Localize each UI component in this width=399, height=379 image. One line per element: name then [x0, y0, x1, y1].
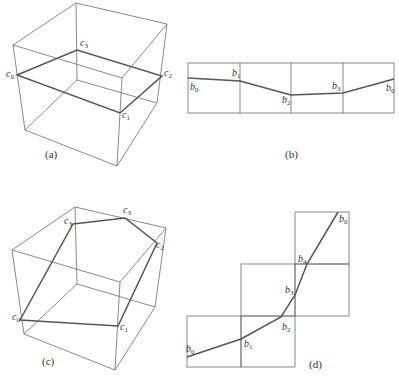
vertex-label-subscript: 2: [287, 326, 291, 334]
panel-c-cube: [12, 207, 166, 370]
vertex-label-b-0: b0: [190, 81, 199, 94]
unfolded-path-d: [187, 212, 338, 357]
vertex-label-subscript: 1: [249, 343, 253, 351]
vertex-label-a-2: c2: [164, 67, 172, 80]
vertex-label-c-2: c2: [156, 239, 164, 252]
vertex-label-subscript: 3: [337, 85, 341, 93]
vertex-label-d-5: b0: [339, 213, 348, 226]
vertex-label-c-1: c1: [120, 321, 128, 334]
vertex-label-subscript: 4: [303, 258, 307, 266]
vertex-label-subscript: 0: [191, 348, 195, 356]
vertex-label-d-2: b2: [282, 321, 291, 334]
caption-c: (c): [42, 355, 55, 368]
vertex-label-subscript: 3: [68, 220, 72, 228]
vertex-label-subscript: 0: [10, 73, 14, 81]
vertex-label-subscript: 2: [287, 99, 291, 107]
vertex-label-a-1: c1: [122, 109, 130, 122]
cross-section-polygon-c: [20, 218, 157, 326]
vertex-label-a-3: c3: [80, 37, 88, 50]
vertex-label-a-0: c0: [6, 68, 14, 81]
vertex-label-subscript: 3: [290, 289, 294, 297]
panel-a-cube: [13, 3, 167, 166]
vertex-label-subscript: 2: [160, 244, 164, 252]
vertex-label-c-0: c0: [12, 311, 20, 324]
vertex-label-subscript: 0: [195, 86, 199, 94]
vertex-label-subscript: 0: [16, 316, 20, 324]
vertex-label-c-3: c3: [64, 215, 72, 228]
vertex-label-c-4: c3: [123, 204, 131, 217]
vertex-label-subscript: 0: [391, 87, 395, 95]
vertex-label-subscript: 1: [126, 114, 130, 122]
vertex-label-b-2: b2: [282, 94, 291, 107]
vertex-label-subscript: 2: [168, 72, 172, 80]
vertex-label-subscript: 3: [127, 209, 131, 217]
caption-d: (d): [309, 358, 322, 371]
vertex-label-subscript: 1: [237, 72, 241, 80]
panel-d-stairs: [187, 212, 349, 367]
vertex-label-subscript: 1: [124, 326, 128, 334]
panel-b-strip: [188, 63, 394, 113]
cross-section-polygon-a: [17, 50, 162, 113]
vertex-label-subscript: 0: [344, 218, 348, 226]
caption-b: (b): [285, 148, 298, 161]
caption-a: (a): [45, 148, 58, 161]
vertex-label-b-3: b3: [332, 80, 341, 93]
figure: c0c1c2c3b0b1b2b3b0c0c1c2c3c3b0b1b2b3b4b0…: [0, 0, 399, 379]
labels: c0c1c2c3b0b1b2b3b0c0c1c2c3c3b0b1b2b3b4b0: [6, 37, 395, 356]
vertex-label-subscript: 3: [84, 42, 88, 50]
vertex-label-d-3: b3: [285, 284, 294, 297]
vertex-label-d-1: b1: [244, 338, 253, 351]
